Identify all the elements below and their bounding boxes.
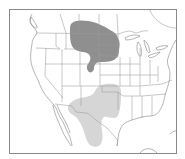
map-svg <box>0 0 185 159</box>
range-map <box>0 0 185 159</box>
